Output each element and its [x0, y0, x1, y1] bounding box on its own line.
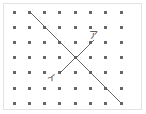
figure-canvas: ア イ [0, 0, 146, 114]
line-layer [0, 0, 146, 114]
label-i-katakana: イ [47, 74, 56, 83]
label-a-katakana: ア [89, 31, 98, 40]
ascending-diagonal-line [60, 40, 94, 73]
